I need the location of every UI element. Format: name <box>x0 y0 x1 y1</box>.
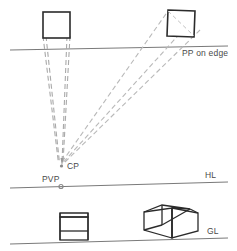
label-cp: CP <box>67 161 79 171</box>
cp-point-marker <box>60 164 63 167</box>
perspective-diagram: PP on edge CP PVP HL GL <box>0 0 237 251</box>
two-point-cube-back-bottom-left <box>144 225 162 230</box>
plan-square-rotated <box>167 10 195 37</box>
projector-line-left-inner <box>46 36 60 163</box>
two-point-cube <box>144 205 198 238</box>
label-gl: GL <box>207 226 219 236</box>
projector-lines-group <box>43 36 70 163</box>
sight-line-to-right-corner <box>65 30 200 162</box>
labels-group: PP on edge CP PVP HL GL <box>42 48 228 236</box>
reference-lines-group <box>10 46 228 244</box>
projector-line-left-outer <box>43 36 59 163</box>
sight-line-to-left-corner <box>62 11 168 162</box>
diagram-canvas: PP on edge CP PVP HL GL <box>0 0 237 251</box>
label-pp-on-edge: PP on edge <box>182 48 228 58</box>
sight-line-to-near-corner <box>64 18 195 162</box>
one-point-cube-front-face <box>60 217 88 240</box>
one-point-cube <box>60 213 88 240</box>
plan-square-parallel <box>43 12 70 38</box>
ground-line <box>10 238 228 244</box>
plan-square-parallel-outline <box>43 12 70 38</box>
two-point-cube-back-bottom-right <box>162 209 190 225</box>
two-point-cube-left-face <box>144 208 172 238</box>
label-hl: HL <box>205 170 216 180</box>
label-pvp: PVP <box>42 174 60 184</box>
point-markers-group <box>59 158 64 189</box>
